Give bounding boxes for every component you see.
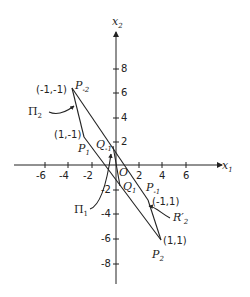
y-tick-label: -6 [101, 234, 111, 244]
pi1-label: Π1 [74, 204, 88, 218]
r2-prime-label: R′2 [173, 212, 188, 226]
x1-axis-label: x1 [222, 160, 233, 174]
q1-label: Q1 [123, 181, 137, 195]
x-tick-label: 4 [159, 171, 165, 181]
x-tick-label: -4 [59, 171, 69, 181]
p-minus1-coord: (-1,1) [152, 197, 179, 207]
x-tick-label: 2 [136, 171, 142, 181]
y-tick-label: 2 [121, 137, 127, 147]
origin-label: O [119, 167, 128, 178]
q-minus1-label: Q-1 [96, 139, 112, 153]
p-minus1-label: P-1 [146, 182, 160, 196]
p2-coord: (1,1) [163, 236, 187, 246]
p2-label: P2 [152, 249, 164, 263]
y-tick-label: 4 [121, 113, 127, 123]
y-tick-label: -4 [101, 209, 111, 219]
p-minus2-coord: (-1,-1) [36, 85, 67, 95]
x2-axis-label: x2 [112, 16, 123, 30]
x-tick-label: -2 [83, 171, 93, 181]
y-tick-label: 8 [121, 64, 127, 74]
diagram-canvas [0, 0, 250, 297]
p1-label: P1 [78, 143, 90, 157]
pi2-label: Π2 [28, 106, 42, 120]
p-minus2-label: P-2 [75, 80, 89, 94]
p1-coord: (1,-1) [54, 130, 81, 140]
x-tick-label: -6 [36, 171, 46, 181]
x-tick-label: 6 [183, 171, 189, 181]
y-tick-label: 6 [121, 88, 127, 98]
y-tick-label: -8 [101, 259, 111, 269]
y-tick-label: -2 [101, 185, 111, 195]
